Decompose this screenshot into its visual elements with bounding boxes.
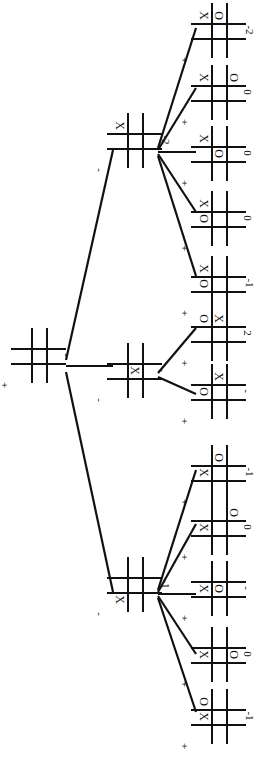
board-gridline-vertical (142, 113, 144, 168)
board-cell-o: O (226, 647, 241, 662)
node-minimax-value: - (61, 353, 73, 357)
board-gridline-horizontal (191, 399, 246, 401)
board-gridline-vertical (142, 557, 144, 612)
tree-node-l11: XO0+ (196, 632, 241, 677)
node-minimax-value: 0 (242, 215, 254, 221)
tictactoe-board: XO (196, 196, 241, 241)
node-player-sign: - (94, 612, 106, 616)
board-gridline-horizontal (191, 535, 246, 537)
board-cell-o: O (211, 450, 226, 465)
tictactoe-board: XO (196, 632, 241, 677)
board-cell-x: X (112, 592, 127, 607)
board-cell-x: X (196, 196, 211, 211)
board-cell-x: X (196, 520, 211, 535)
board-gridline-vertical (127, 557, 129, 612)
tree-node-l12: OX-1+ (196, 694, 241, 739)
board-gridline-vertical (211, 689, 213, 744)
board-gridline-vertical (142, 343, 144, 398)
tree-node-l9: OX0+ (196, 505, 241, 550)
node-minimax-value: - (241, 586, 253, 590)
tree-node-l6: OX2+ (196, 311, 241, 356)
board-cell-x: X (196, 70, 211, 85)
board-gridline-horizontal (191, 38, 246, 40)
board-gridline-horizontal (191, 480, 246, 482)
tictactoe-board: X (112, 118, 157, 163)
board-gridline-vertical (226, 191, 228, 246)
node-player-sign: + (179, 681, 191, 687)
tree-node-root: -+ (16, 333, 61, 378)
tictactoe-board (16, 333, 61, 378)
board-cell-o: O (196, 276, 211, 291)
tree-edge (158, 596, 196, 654)
node-minimax-value: -2 (244, 25, 256, 34)
board-cell-o: O (226, 505, 241, 520)
board-gridline-vertical (226, 561, 228, 616)
node-player-sign: + (179, 418, 191, 424)
node-minimax-value: - (157, 368, 169, 372)
tree-node-l5: XO-1+ (196, 261, 241, 306)
board-gridline-vertical (226, 689, 228, 744)
node-player-sign: - (94, 168, 106, 172)
tree-edge (158, 328, 196, 373)
board-cell-o: O (196, 211, 211, 226)
node-player-sign: - (94, 398, 106, 402)
board-cell-x: X (196, 261, 211, 276)
board-gridline-horizontal (11, 348, 66, 350)
board-gridline-vertical (211, 500, 213, 555)
tree-edge (158, 156, 196, 276)
tictactoe-board: X (112, 348, 157, 393)
node-player-sign: + (179, 180, 191, 186)
tree-node-l4: XO0+ (196, 196, 241, 241)
board-cell-x: X (196, 647, 211, 662)
node-player-sign: + (0, 382, 11, 388)
node-player-sign: + (179, 499, 191, 505)
board-cell-o: O (226, 70, 241, 85)
tree-node-l10: XO-+ (196, 566, 241, 611)
tree-edge (158, 28, 196, 148)
board-cell-o: O (196, 311, 211, 326)
board-gridline-horizontal (107, 577, 162, 579)
board-gridline-horizontal (11, 363, 66, 365)
tictactoe-board: XO (196, 70, 241, 115)
tree-node-l3: XO0+ (196, 131, 241, 176)
tree-node-n1: X-2- (112, 118, 157, 163)
node-minimax-value: - (241, 389, 253, 393)
board-cell-x: X (211, 369, 226, 384)
node-minimax-value: -1 (244, 711, 256, 720)
node-player-sign: + (179, 360, 191, 366)
tictactoe-board: XO (196, 261, 241, 306)
board-gridline-horizontal (191, 161, 246, 163)
tictactoe-board: OX (196, 311, 241, 356)
node-minimax-value: -1 (244, 278, 256, 287)
board-gridline-vertical (226, 126, 228, 181)
board-gridline-horizontal (191, 85, 246, 87)
node-player-sign: + (179, 245, 191, 251)
board-gridline-horizontal (191, 23, 246, 25)
board-gridline-horizontal (191, 226, 246, 228)
game-tree-figure: -+X-2-X--X-1-XO-2+XO0+XO0+XO0+XO-1+OX2+X… (0, 0, 270, 758)
tree-node-l1: XO-2+ (196, 8, 241, 53)
node-minimax-value: 2 (242, 330, 254, 336)
node-player-sign: + (179, 119, 191, 125)
board-gridline-horizontal (107, 133, 162, 135)
node-player-sign: + (179, 743, 191, 749)
board-cell-x: X (196, 8, 211, 23)
board-gridline-vertical (226, 306, 228, 361)
board-cell-x: X (112, 118, 127, 133)
board-gridline-vertical (211, 65, 213, 120)
tictactoe-board: XO (196, 131, 241, 176)
node-minimax-value: 0 (242, 651, 254, 657)
board-gridline-vertical (226, 256, 228, 311)
tree-node-n2: X-- (112, 348, 157, 393)
board-cell-x: X (196, 465, 211, 480)
tree-node-n3: X-1- (112, 562, 157, 607)
node-player-sign: + (179, 554, 191, 560)
board-gridline-vertical (226, 445, 228, 500)
board-gridline-horizontal (191, 662, 246, 664)
board-cell-o: O (211, 8, 226, 23)
board-cell-x: X (196, 581, 211, 596)
board-cell-x: X (196, 709, 211, 724)
board-cell-o: O (196, 384, 211, 399)
board-gridline-horizontal (191, 326, 246, 328)
tictactoe-board: OX (196, 505, 241, 550)
